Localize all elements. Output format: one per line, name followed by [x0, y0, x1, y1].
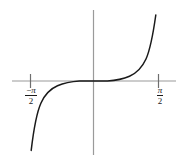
fraction-positive-half-pi: π 2 — [157, 85, 164, 107]
fraction-denominator: 2 — [25, 96, 37, 106]
fraction-denominator: 2 — [157, 96, 164, 106]
fraction-negative-half-pi: −π 2 — [25, 85, 37, 107]
tick-label-positive-half-pi: π 2 — [148, 85, 172, 107]
graph-canvas — [0, 0, 183, 161]
pi-symbol: π — [31, 85, 36, 95]
fraction-numerator: π — [157, 85, 164, 96]
tangent-graph-figure: −π 2 π 2 — [0, 0, 183, 161]
tick-label-negative-half-pi: −π 2 — [18, 85, 44, 107]
fraction-numerator: −π — [25, 85, 37, 96]
